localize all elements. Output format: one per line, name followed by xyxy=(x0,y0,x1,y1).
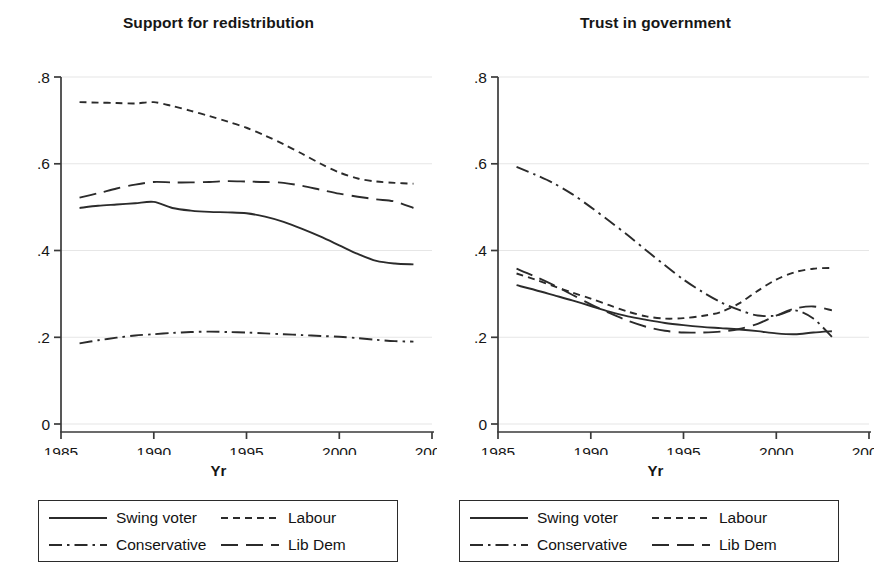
y-tick-label: .6 xyxy=(37,155,50,172)
short-dashed-line-icon xyxy=(219,512,281,524)
solid-line-icon xyxy=(47,512,109,524)
x-tick-label: 1995 xyxy=(229,444,263,455)
figure-root: Support for redistribution 0.2.4.6.81985… xyxy=(0,0,875,588)
legend-label: Labour xyxy=(288,510,336,526)
legend-label: Lib Dem xyxy=(288,537,346,553)
y-tick-label: .8 xyxy=(37,69,50,86)
x-tick-label: 2000 xyxy=(759,444,794,455)
legend-label: Conservative xyxy=(116,537,206,553)
x-tick-label: 2005 xyxy=(852,444,874,455)
short-dashed-line-icon xyxy=(650,512,712,524)
legend-item-lib-dem: Lib Dem xyxy=(219,537,391,553)
legend-label: Conservative xyxy=(537,537,627,553)
series-line-labour xyxy=(80,102,414,184)
legend: Swing voterLabourConservativeLib Dem xyxy=(459,500,839,562)
y-tick-label: .4 xyxy=(474,242,487,259)
y-tick-label: .8 xyxy=(474,69,487,86)
legend-label: Swing voter xyxy=(116,510,197,526)
legend-item-labour: Labour xyxy=(219,510,391,526)
panel-trust-in-government: Trust in government 0.2.4.6.819851990199… xyxy=(437,0,874,588)
plot-area-left: 0.2.4.6.819851990199520002005 xyxy=(0,55,437,455)
legend-item-lib-dem: Lib Dem xyxy=(650,537,832,553)
y-tick-label: 0 xyxy=(41,416,50,433)
y-tick-label: .6 xyxy=(474,155,487,172)
x-tick-label: 1990 xyxy=(574,444,609,455)
x-tick-label: 2005 xyxy=(415,444,437,455)
legend-label: Labour xyxy=(719,510,767,526)
panel-title: Support for redistribution xyxy=(0,14,437,32)
panel-title: Trust in government xyxy=(437,14,874,32)
y-tick-label: 0 xyxy=(478,416,487,433)
x-tick-label: 1995 xyxy=(666,444,700,455)
y-tick-label: .4 xyxy=(37,242,50,259)
y-tick-label: .2 xyxy=(37,329,50,346)
line-chart-svg: 0.2.4.6.819851990199520002005 xyxy=(0,55,437,455)
x-axis-title: Yr xyxy=(0,462,437,479)
legend-label: Swing voter xyxy=(537,510,618,526)
legend-item-conservative: Conservative xyxy=(47,537,219,553)
legend-item-labour: Labour xyxy=(650,510,832,526)
legend-item-conservative: Conservative xyxy=(468,537,650,553)
series-line-labour xyxy=(517,268,832,319)
x-tick-label: 1990 xyxy=(137,444,172,455)
x-tick-label: 2000 xyxy=(322,444,357,455)
line-chart-svg: 0.2.4.6.819851990199520002005 xyxy=(437,55,874,455)
x-tick-label: 1985 xyxy=(481,444,515,455)
dash-dot-line-icon xyxy=(468,539,530,551)
legend: Swing voterLabourConservativeLib Dem xyxy=(38,500,398,562)
long-dashed-line-icon xyxy=(650,539,712,551)
legend-item-swing-voter: Swing voter xyxy=(468,510,650,526)
dash-dot-line-icon xyxy=(47,539,109,551)
solid-line-icon xyxy=(468,512,530,524)
series-line-swing-voter xyxy=(517,285,832,334)
plot-area-right: 0.2.4.6.819851990199520002005 xyxy=(437,55,874,455)
panel-support-for-redistribution: Support for redistribution 0.2.4.6.81985… xyxy=(0,0,437,588)
series-line-lib-dem xyxy=(517,269,832,333)
x-axis-title: Yr xyxy=(437,462,874,479)
x-tick-label: 1985 xyxy=(44,444,78,455)
legend-label: Lib Dem xyxy=(719,537,777,553)
long-dashed-line-icon xyxy=(219,539,281,551)
y-tick-label: .2 xyxy=(474,329,487,346)
legend-item-swing-voter: Swing voter xyxy=(47,510,219,526)
series-line-swing-voter xyxy=(80,202,414,265)
